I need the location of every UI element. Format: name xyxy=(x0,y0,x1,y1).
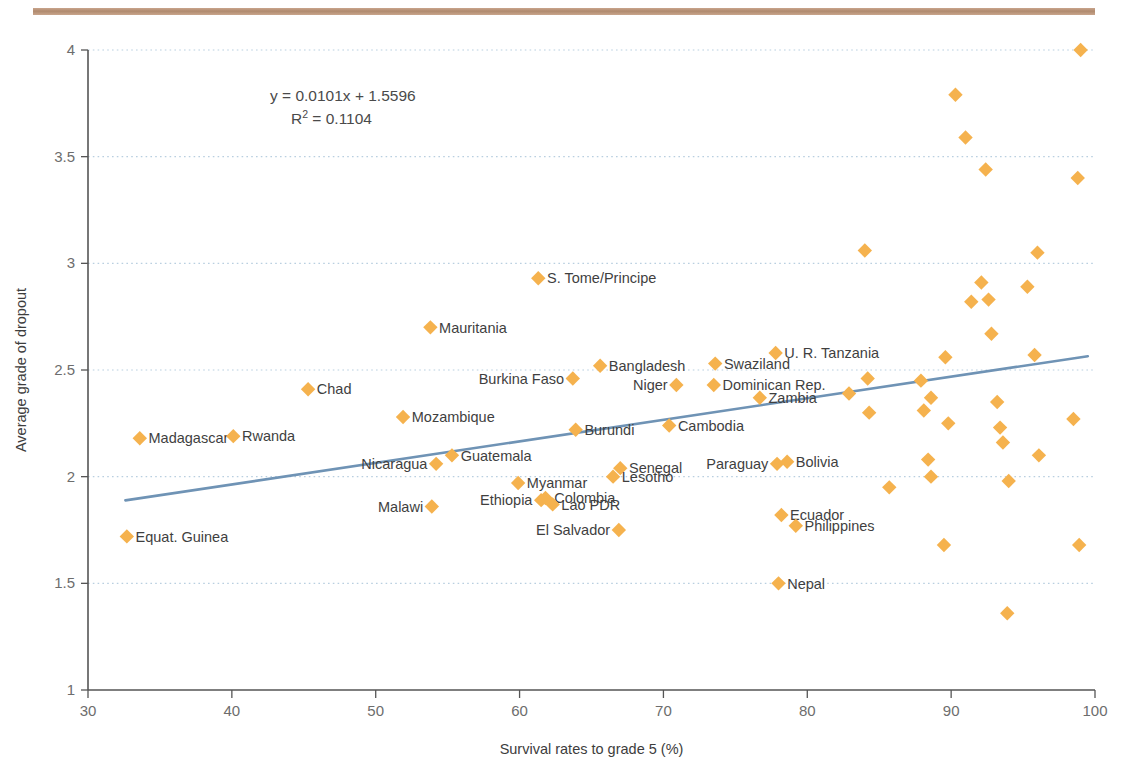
data-point xyxy=(882,480,896,494)
data-point-label: U. R. Tanzania xyxy=(784,345,880,361)
data-point-marker xyxy=(964,295,978,309)
data-point xyxy=(1071,171,1085,185)
data-point: Lesotho xyxy=(606,469,674,485)
data-point-label: Zambia xyxy=(769,390,818,406)
data-point-marker xyxy=(593,359,607,373)
data-point: Paraguay xyxy=(706,456,784,472)
y-tick-label: 3.5 xyxy=(54,148,75,165)
data-point-marker xyxy=(948,88,962,102)
data-point-marker xyxy=(708,356,722,370)
data-point xyxy=(924,391,938,405)
x-tick-label: 100 xyxy=(1082,702,1107,719)
data-point xyxy=(937,538,951,552)
data-point-marker xyxy=(774,508,788,522)
data-point xyxy=(1020,280,1034,294)
data-point-marker xyxy=(531,271,545,285)
scatter-chart-figure: 30405060708090100 11.522.533.54 Equat. G… xyxy=(0,0,1138,779)
data-point-marker xyxy=(882,480,896,494)
data-point-marker xyxy=(780,455,794,469)
data-point xyxy=(1066,412,1080,426)
y-tick-label: 3 xyxy=(67,254,75,271)
data-point-marker xyxy=(301,382,315,396)
data-point: Burkina Faso xyxy=(479,371,580,387)
data-point-marker xyxy=(707,378,721,392)
data-point: Nicaragua xyxy=(361,456,443,472)
data-point-marker xyxy=(429,457,443,471)
data-point-label: Swaziland xyxy=(724,356,790,372)
data-point xyxy=(917,403,931,417)
data-point xyxy=(990,395,1004,409)
data-point xyxy=(921,452,935,466)
data-point xyxy=(941,416,955,430)
data-point xyxy=(914,373,928,387)
data-point-marker xyxy=(978,162,992,176)
data-point-marker xyxy=(917,403,931,417)
data-point: Swaziland xyxy=(708,356,790,372)
data-point-marker xyxy=(941,416,955,430)
data-point: Mauritania xyxy=(423,320,508,336)
data-point-label: Mauritania xyxy=(439,320,508,336)
data-point xyxy=(1072,538,1086,552)
data-point-marker xyxy=(996,435,1010,449)
data-point xyxy=(1027,348,1041,362)
x-axis-title: Survival rates to grade 5 (%) xyxy=(500,741,684,757)
data-point: El Salvador xyxy=(536,522,626,538)
data-point-label: Myanmar xyxy=(527,475,588,491)
regression-equation: y = 0.0101x + 1.5596 xyxy=(270,87,416,104)
data-point-marker xyxy=(984,327,998,341)
data-point xyxy=(861,371,875,385)
data-point-label: Niger xyxy=(633,377,668,393)
data-point: S. Tome/Principe xyxy=(531,270,656,286)
data-point-marker xyxy=(669,378,683,392)
data-point-label: Bolivia xyxy=(796,454,840,470)
data-points-group: Equat. GuineaMadagascarRwandaChadMozambi… xyxy=(120,43,1088,621)
x-tick-group: 30405060708090100 xyxy=(80,690,1108,719)
data-point-marker xyxy=(938,350,952,364)
x-tick-label: 90 xyxy=(943,702,960,719)
data-point-marker xyxy=(396,410,410,424)
data-point xyxy=(996,435,1010,449)
data-point-label: Nepal xyxy=(787,576,825,592)
r-squared-annotation: R2 = 0.1104 xyxy=(291,108,372,127)
data-point-label: Ethiopia xyxy=(480,492,533,508)
data-point: Malawi xyxy=(378,499,439,515)
y-tick-label: 4 xyxy=(67,41,75,58)
data-point-marker xyxy=(612,523,626,537)
data-point-marker xyxy=(771,576,785,590)
data-point-marker xyxy=(990,395,1004,409)
data-point-label: Philippines xyxy=(804,518,874,534)
data-point: Myanmar xyxy=(511,475,587,491)
data-point: Ethiopia xyxy=(480,492,548,508)
data-point-label: Malawi xyxy=(378,499,423,515)
data-point-marker xyxy=(1072,538,1086,552)
data-point-marker xyxy=(1000,606,1014,620)
data-point xyxy=(924,469,938,483)
data-point xyxy=(958,130,972,144)
data-point-label: Cambodia xyxy=(678,418,745,434)
data-point xyxy=(1032,448,1046,462)
data-point: Mozambique xyxy=(396,409,495,425)
x-tick-label: 70 xyxy=(655,702,672,719)
data-point-marker xyxy=(924,391,938,405)
data-point-marker xyxy=(842,386,856,400)
data-point-label: Guatemala xyxy=(461,448,533,464)
data-point-marker xyxy=(1027,348,1041,362)
data-point-label: Mozambique xyxy=(412,409,495,425)
data-point-marker xyxy=(858,243,872,257)
data-point: U. R. Tanzania xyxy=(768,345,880,361)
data-point-label: Lesotho xyxy=(622,469,674,485)
data-point-marker xyxy=(924,469,938,483)
data-point xyxy=(978,162,992,176)
data-point xyxy=(993,420,1007,434)
data-point-marker xyxy=(993,420,1007,434)
data-point-marker xyxy=(1073,43,1087,57)
data-point-label: Paraguay xyxy=(706,456,769,472)
data-point: Bangladesh xyxy=(593,358,685,374)
data-point-marker xyxy=(862,405,876,419)
data-point-marker xyxy=(981,292,995,306)
y-tick-label: 1 xyxy=(67,681,75,698)
data-point-label: Rwanda xyxy=(242,428,296,444)
data-point-label: El Salvador xyxy=(536,522,610,538)
data-point: Nepal xyxy=(771,576,825,592)
x-tick-label: 60 xyxy=(511,702,528,719)
